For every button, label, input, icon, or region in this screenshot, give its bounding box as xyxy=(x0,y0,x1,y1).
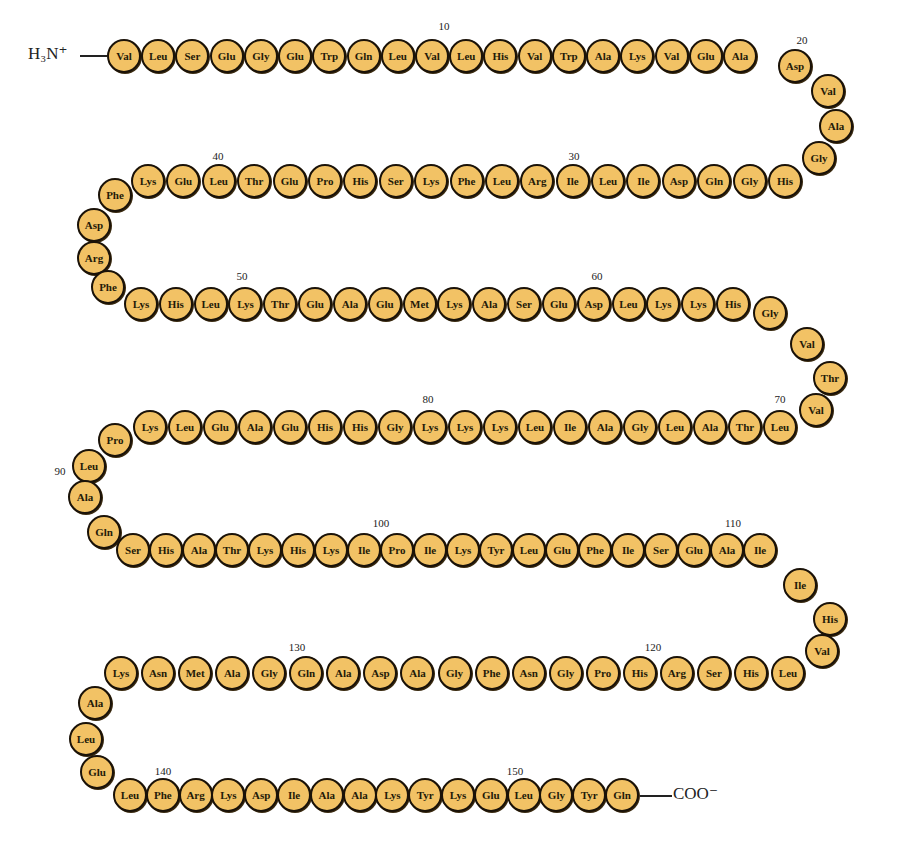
residue-label: Gln xyxy=(297,668,315,679)
residue-circle: Val xyxy=(518,39,552,73)
residue-circle: Ala xyxy=(723,39,757,73)
residue-label: Ser xyxy=(516,299,532,310)
residue-label: Arg xyxy=(85,253,103,264)
residue-label: Glu xyxy=(685,545,703,556)
residue-label: Lys xyxy=(384,790,401,801)
residue-circle: Lys xyxy=(211,778,245,812)
residue-circle: Ala xyxy=(693,410,727,444)
residue-circle: Leu xyxy=(69,722,103,756)
n-terminus-bond xyxy=(80,55,107,57)
residue-label: Glu xyxy=(218,51,236,62)
residue-circle: Glu xyxy=(677,533,711,567)
residue-label: Lys xyxy=(422,422,439,433)
residue-label: Ala xyxy=(247,422,264,433)
residue-label: Asp xyxy=(585,299,603,310)
residue-label: Ala xyxy=(597,422,614,433)
residue-circle: Asp xyxy=(77,208,111,242)
residue-circle: Phe xyxy=(98,178,132,212)
residue-label: Ser xyxy=(125,545,141,556)
residue-circle: Ala xyxy=(819,109,853,143)
residue-label: Leu xyxy=(779,668,797,679)
residue-label: His xyxy=(352,176,368,187)
residue-label: Phe xyxy=(483,668,501,679)
residue-label: Ala xyxy=(351,790,368,801)
residue-circle: Val xyxy=(799,393,833,427)
residue-label: Gly xyxy=(261,668,278,679)
residue-label: Val xyxy=(116,51,132,62)
residue-label: Phe xyxy=(99,282,117,293)
residue-circle: Thr xyxy=(728,410,762,444)
residue-label: Lys xyxy=(133,299,150,310)
residue-circle: Leu xyxy=(168,410,202,444)
residue-label: Lys xyxy=(457,422,474,433)
residue-circle: Glu xyxy=(474,778,508,812)
residue-label: Thr xyxy=(736,422,754,433)
residue-circle: Ala xyxy=(78,686,112,720)
residue-circle: Ile xyxy=(611,533,645,567)
residue-label: His xyxy=(352,422,368,433)
residue-circle: Lys xyxy=(248,533,282,567)
residue-label: Thr xyxy=(271,299,289,310)
residue-label: Glu xyxy=(175,176,193,187)
residue-label: Lys xyxy=(220,790,237,801)
residue-circle: Phe xyxy=(578,533,612,567)
residue-label: Pro xyxy=(107,435,124,446)
residue-label: Lys xyxy=(257,545,274,556)
residue-circle: Gly xyxy=(378,410,412,444)
residue-circle: Asn xyxy=(512,656,546,690)
residue-circle: Ala xyxy=(68,480,102,514)
residue-circle: Glu xyxy=(542,287,576,321)
residue-label: Met xyxy=(410,299,429,310)
residue-label: His xyxy=(743,668,759,679)
residue-circle: Arg xyxy=(520,164,554,198)
residue-circle: Ala xyxy=(238,410,272,444)
residue-label: Thr xyxy=(245,176,263,187)
position-marker: 30 xyxy=(569,150,580,162)
residue-circle: Thr xyxy=(237,164,271,198)
residue-circle: Glu xyxy=(210,39,244,73)
residue-label: Ser xyxy=(706,668,722,679)
residue-circle: Gln xyxy=(697,164,731,198)
residue-circle: Gly xyxy=(623,410,657,444)
residue-circle: Lys xyxy=(446,533,480,567)
residue-circle: Ile xyxy=(277,778,311,812)
position-marker: 80 xyxy=(423,393,434,405)
residue-circle: Leu xyxy=(771,656,805,690)
residue-circle: Lys xyxy=(314,533,348,567)
residue-label: Lys xyxy=(237,299,254,310)
residue-label: Asp xyxy=(252,790,270,801)
residue-label: Ala xyxy=(409,668,426,679)
residue-label: Asp xyxy=(670,176,688,187)
residue-label: Lys xyxy=(423,176,440,187)
residue-circle: Met xyxy=(178,656,212,690)
residue-circle: Val xyxy=(805,634,839,668)
residue-label: Trp xyxy=(321,51,339,62)
residue-label: His xyxy=(725,299,741,310)
residue-label: Gly xyxy=(741,176,758,187)
residue-label: Gly xyxy=(557,668,574,679)
residue-label: Asp xyxy=(786,61,804,72)
residue-label: His xyxy=(492,51,508,62)
residue-circle: Leu xyxy=(194,287,228,321)
residue-label: Val xyxy=(814,646,830,657)
residue-circle: His xyxy=(343,164,377,198)
residue-label: Gly xyxy=(631,422,648,433)
residue-circle: Leu xyxy=(612,287,646,321)
residue-label: Leu xyxy=(520,545,538,556)
residue-circle: Leu xyxy=(518,410,552,444)
residue-label: Val xyxy=(808,405,824,416)
residue-label: Thr xyxy=(821,373,839,384)
residue-circle: Lys xyxy=(414,164,448,198)
residue-label: Lys xyxy=(690,299,707,310)
residue-circle: Glu xyxy=(273,164,307,198)
residue-circle: Gly xyxy=(549,656,583,690)
residue-circle: Leu xyxy=(485,164,519,198)
residue-label: Ile xyxy=(622,545,634,556)
residue-label: Leu xyxy=(619,299,637,310)
residue-circle: Ala xyxy=(310,778,344,812)
residue-label: Lys xyxy=(446,299,463,310)
residue-circle: Met xyxy=(403,287,437,321)
residue-circle: Leu xyxy=(141,39,175,73)
residue-circle: Gly xyxy=(753,296,787,330)
residue-label: Asn xyxy=(519,668,537,679)
